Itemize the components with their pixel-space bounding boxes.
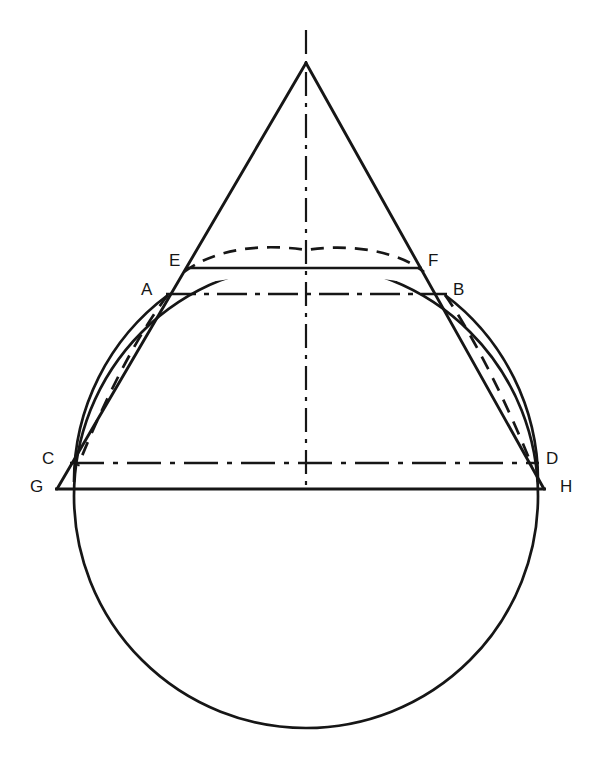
vertex-label-G: G [30, 478, 43, 495]
vertex-label-F: F [428, 252, 439, 269]
vertex-label-B: B [453, 281, 465, 298]
vertex-label-H: H [560, 478, 572, 495]
vertex-label-C: C [42, 450, 54, 467]
geometry-figure [0, 0, 606, 771]
diagram-canvas: E F A B C D G H [0, 0, 606, 771]
vertex-label-D: D [546, 450, 558, 467]
vertex-label-E: E [169, 252, 181, 269]
vertex-label-A: A [141, 281, 153, 298]
cone-right-slant [306, 63, 544, 489]
